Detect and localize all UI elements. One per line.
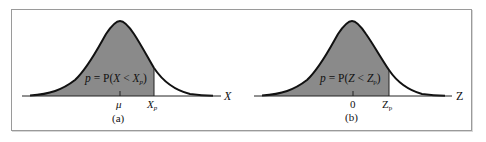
normal-distribution-figure: p = P(X < Xp) X μ Xp (a) p = P(Z < Zp) Z… <box>0 0 486 142</box>
panel-b: p = P(Z < Zp) Z 0 Zp (b) <box>254 21 463 124</box>
bound-label-a: Xp <box>146 98 158 112</box>
axis-label-b: Z <box>456 89 463 103</box>
bound-label-b: Zp <box>382 98 393 112</box>
zero-label-b: 0 <box>350 98 356 110</box>
caption-a: (a) <box>112 112 125 125</box>
shaded-area-b <box>262 21 389 96</box>
mean-label-a: μ <box>115 98 122 110</box>
probability-formula-a: p = P(X < Xp) <box>84 72 147 86</box>
caption-b: (b) <box>345 111 358 124</box>
panel-a: p = P(X < Xp) X μ Xp (a) <box>22 21 232 125</box>
axis-label-a: X <box>223 89 232 103</box>
probability-formula-b: p = P(Z < Zp) <box>319 72 381 86</box>
